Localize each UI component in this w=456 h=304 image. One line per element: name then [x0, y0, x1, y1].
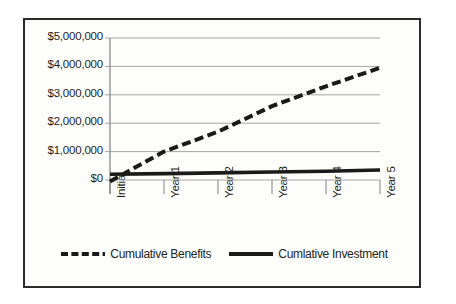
- gridlines: [105, 38, 380, 180]
- series-line: [110, 170, 380, 174]
- chart-legend: Cumulative Benefits Cumlative Investment: [25, 247, 423, 261]
- chart-figure: $0$1,000,000$2,000,000$3,000,000$4,000,0…: [0, 0, 456, 304]
- series-line: [110, 68, 380, 182]
- chart-plot-area: $0$1,000,000$2,000,000$3,000,000$4,000,0…: [25, 20, 423, 290]
- solid-line-swatch-icon: [228, 249, 274, 259]
- data-series-layer: [110, 68, 380, 182]
- chart-frame: $0$1,000,000$2,000,000$3,000,000$4,000,0…: [23, 18, 421, 288]
- legend-label-cumlative-investment: Cumlative Investment: [278, 247, 387, 261]
- legend-label-cumulative-benefits: Cumulative Benefits: [110, 247, 211, 261]
- dashed-line-swatch-icon: [60, 249, 106, 259]
- x-axis-ticks: [110, 180, 380, 194]
- legend-item-cumlative-investment: Cumlative Investment: [228, 247, 387, 261]
- legend-item-cumulative-benefits: Cumulative Benefits: [60, 247, 211, 261]
